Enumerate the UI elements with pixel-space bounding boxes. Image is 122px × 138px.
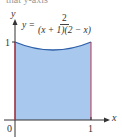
y-axis-arrow-icon <box>13 19 18 25</box>
formula-numerator: 2 <box>60 13 69 25</box>
x-axis-label: x <box>112 113 116 123</box>
x-axis-arrow-icon <box>104 118 110 123</box>
x-tick-label-1: 1 <box>88 124 93 134</box>
shaded-area <box>15 42 91 120</box>
y-axis-label: y <box>11 9 15 19</box>
x-tick-label-0: 0 <box>7 124 12 134</box>
function-formula: y = 2 (x + 1)(2 − x) <box>22 13 91 36</box>
formula-lhs: y = <box>22 20 35 30</box>
y-tick-label-1: 1 <box>5 38 10 48</box>
formula-fraction: 2 (x + 1)(2 − x) <box>38 13 91 36</box>
formula-denominator: (x + 1)(2 − x) <box>38 25 91 36</box>
